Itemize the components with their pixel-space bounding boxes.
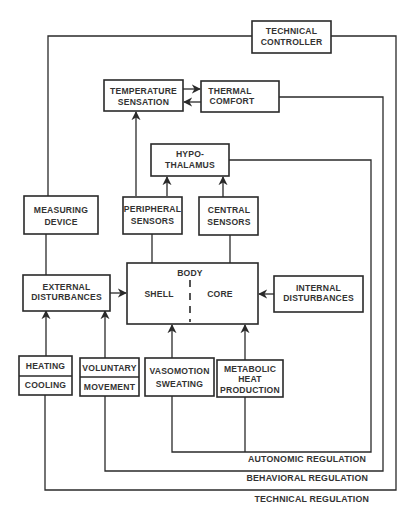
body-shell-label: SHELL xyxy=(144,289,173,299)
node-peripheral-sensors: PERIPHERAL SENSORS xyxy=(123,197,182,234)
peripheral-sensors-line2: SENSORS xyxy=(131,216,174,226)
node-heating-cooling: HEATING COOLING xyxy=(19,356,72,395)
vasomotion-sweating-line1: VASOMOTION xyxy=(149,366,209,376)
node-temperature-sensation: TEMPERATURE SENSATION xyxy=(104,80,183,111)
node-body: BODY SHELL CORE xyxy=(127,263,258,324)
node-technical-controller: TECHNICAL CONTROLLER xyxy=(252,21,331,53)
thermal-comfort-line1: THERMAL xyxy=(208,86,251,96)
measuring-device-line1: MEASURING xyxy=(34,205,88,215)
metabolic-line3: PRODUCTION xyxy=(220,385,280,395)
behavioral-regulation-label: BEHAVIORAL REGULATION xyxy=(247,473,369,483)
cooling-label: COOLING xyxy=(25,380,67,390)
node-voluntary-movement: VOLUNTARY MOVEMENT xyxy=(80,358,139,396)
autonomic-regulation-label: AUTONOMIC REGULATION xyxy=(248,454,366,464)
vasomotion-sweating-line2: SWEATING xyxy=(156,379,203,389)
metabolic-line2: HEAT xyxy=(238,374,262,384)
heating-label: HEATING xyxy=(26,361,66,371)
node-internal-disturbances: INTERNAL DISTURBANCES xyxy=(274,276,363,312)
hypothalamus-line2: THALAMUS xyxy=(165,160,215,170)
node-external-disturbances: EXTERNAL DISTURBANCES xyxy=(23,275,110,311)
technical-controller-line2: CONTROLLER xyxy=(261,37,323,47)
thermal-comfort-line2: COMFORT xyxy=(210,96,255,106)
node-metabolic-heat-production: METABOLIC HEAT PRODUCTION xyxy=(217,360,283,397)
central-sensors-line2: SENSORS xyxy=(207,217,250,227)
external-disturbances-line1: EXTERNAL xyxy=(43,282,91,292)
body-title: BODY xyxy=(177,268,203,278)
temperature-sensation-line1: TEMPERATURE xyxy=(110,86,177,96)
temperature-sensation-line2: SENSATION xyxy=(118,97,169,107)
body-core-label: CORE xyxy=(207,289,233,299)
node-measuring-device: MEASURING DEVICE xyxy=(24,196,98,234)
movement-label: MOVEMENT xyxy=(84,382,136,392)
node-thermal-comfort: THERMAL COMFORT xyxy=(201,81,279,112)
central-sensors-line1: CENTRAL xyxy=(208,205,250,215)
measuring-device-line2: DEVICE xyxy=(44,217,77,227)
metabolic-line1: METABOLIC xyxy=(224,364,276,374)
external-disturbances-line2: DISTURBANCES xyxy=(31,292,102,302)
node-vasomotion-sweating: VASOMOTION SWEATING xyxy=(145,358,214,396)
internal-disturbances-line2: DISTURBANCES xyxy=(283,293,354,303)
node-central-sensors: CENTRAL SENSORS xyxy=(199,197,258,235)
hypothalamus-line1: HYPO- xyxy=(176,149,204,159)
thermoregulation-diagram: TECHNICAL CONTROLLER TEMPERATURE SENSATI… xyxy=(0,0,412,510)
voluntary-label: VOLUNTARY xyxy=(82,363,136,373)
internal-disturbances-line1: INTERNAL xyxy=(296,283,341,293)
technical-regulation-label: TECHNICAL REGULATION xyxy=(254,494,369,504)
technical-controller-line1: TECHNICAL xyxy=(266,26,317,36)
peripheral-sensors-line1: PERIPHERAL xyxy=(124,204,181,214)
node-hypothalamus: HYPO- THALAMUS xyxy=(151,144,229,176)
